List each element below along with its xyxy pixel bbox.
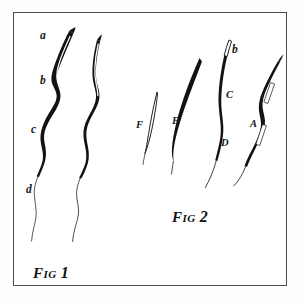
specimen-drawings: [0, 0, 302, 305]
caption-fig-2-small: IG: [183, 212, 196, 224]
caption-fig-1-number: 1: [57, 264, 70, 281]
caption-fig-1: FIG1: [33, 264, 69, 282]
label-fig2-b: b: [232, 44, 238, 56]
fig1-specimen-2-body: [79, 40, 100, 179]
label-fig2-e: E: [172, 116, 179, 127]
illustration-plate: a b c d F E b C D A FIG1 FIG2: [0, 0, 302, 305]
label-fig1-c: c: [31, 124, 36, 136]
caption-fig-2-number: 2: [196, 208, 209, 225]
fig2-specimen-A-vacuole-lower: [256, 125, 267, 146]
fig1-specimen-1-body: [37, 31, 74, 177]
fig2-specimen-F-tail: [143, 153, 145, 164]
label-fig2-a: A: [250, 119, 257, 130]
label-fig2-c: C: [226, 90, 233, 101]
fig1-specimen-1-tail: [32, 177, 38, 241]
label-fig1-b: b: [40, 75, 46, 87]
fig2-specimen-F-outline: [145, 92, 158, 154]
fig2-specimen-E-tail: [172, 161, 174, 174]
fig2-specimen-A-tail: [234, 167, 246, 186]
fig1-specimen-2: [73, 34, 102, 241]
caption-fig-2-prefix: F: [172, 209, 183, 225]
fig1-specimen-2-apex: [97, 34, 102, 41]
fig2-specimen-E-body: [172, 58, 202, 162]
label-fig1-d: d: [26, 184, 32, 196]
fig1-specimen-2-tail: [73, 178, 81, 241]
fig2-specimen-A: [234, 55, 284, 186]
label-fig2-d: D: [221, 138, 229, 149]
caption-fig-2: FIG2: [172, 208, 208, 226]
caption-fig-1-prefix: F: [33, 265, 44, 281]
fig1-specimen-1: [32, 27, 76, 241]
caption-fig-1-small: IG: [44, 268, 57, 280]
fig2-specimen-BCD: [205, 40, 231, 188]
fig2-specimen-BCD-apex: [224, 40, 231, 57]
fig2-specimen-F: [143, 92, 158, 165]
label-fig1-a: a: [40, 30, 46, 42]
label-fig2-f: F: [136, 120, 143, 131]
fig2-specimen-A-body: [245, 60, 282, 167]
fig2-specimen-BCD-tail: [205, 161, 216, 188]
